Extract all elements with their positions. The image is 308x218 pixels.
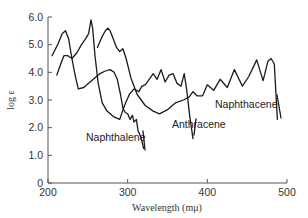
x-axis-title: Wavelength (mμ) — [132, 202, 202, 214]
x-tick-label: 200 — [39, 186, 57, 198]
anthracene-label: Anthracene — [172, 118, 226, 130]
x-tick-label: 400 — [199, 186, 217, 198]
y-tick-label: 2.0 — [28, 121, 43, 133]
y-tick-label: 6.0 — [28, 11, 43, 23]
x-tick-label: 300 — [119, 186, 137, 198]
naphthalene-label: Naphthalene — [86, 131, 146, 143]
y-tick-label: 5.0 — [28, 38, 43, 50]
y-tick-label: 4.0 — [28, 66, 43, 78]
naphthacene-label: Naphthacene — [215, 98, 278, 110]
y-tick-label: 1.0 — [28, 149, 43, 161]
x-tick-label: 500 — [278, 186, 296, 198]
y-tick-label: 3.0 — [28, 94, 43, 106]
absorption-spectrum-chart: 01.02.03.04.05.06.0200300400500 Naphthal… — [0, 0, 308, 218]
y-axis-title: log ε — [5, 90, 16, 109]
